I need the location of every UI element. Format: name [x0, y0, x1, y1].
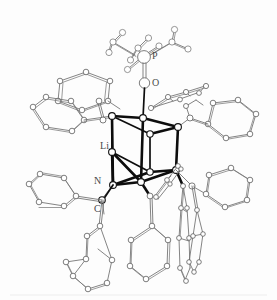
phosphorus-atom	[138, 51, 151, 64]
core-atom-n-backleft	[109, 113, 116, 120]
core-atom-n-front	[138, 179, 145, 186]
atom-label-o: O	[152, 78, 159, 88]
core-atom-n-right	[175, 124, 182, 131]
core-atom-li-back	[147, 131, 153, 137]
core-atom-n-back-lower	[147, 169, 153, 175]
atom-label-n: N	[94, 176, 101, 186]
atom-label-li: Li	[100, 141, 109, 151]
oxygen-atom	[139, 78, 149, 88]
core-atom-li-top	[140, 115, 147, 122]
atom-label-p: P	[152, 51, 158, 61]
core-atom-li-left	[109, 149, 116, 156]
molecular-structure-figure: .bl{stroke:#6e6e6e;stroke-width:.85;fill…	[0, 0, 277, 300]
structure-drawing: .bl{stroke:#6e6e6e;stroke-width:.85;fill…	[0, 0, 277, 300]
atom-label-c: C	[94, 204, 101, 214]
